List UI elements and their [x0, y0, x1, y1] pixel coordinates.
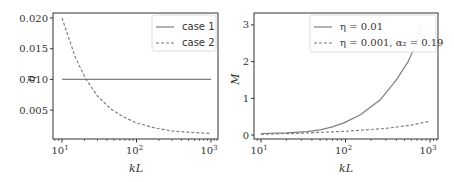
right-legend-eta-0001: η = 0.001, α₂ = 0.19 — [340, 37, 443, 48]
y-tick-label: 1 — [243, 93, 249, 104]
right-plot: 0123 101102103 M kL η = 0.01 η = 0.001, … — [229, 13, 443, 175]
x-tick-label: 103 — [200, 144, 217, 156]
right-y-label: M — [229, 73, 242, 86]
x-tick-label: 101 — [250, 144, 267, 156]
left-x-ticks: 101102103 — [51, 139, 217, 156]
figure: 0.0050.0100.0150.020 101102103 η kL case… — [0, 0, 454, 182]
x-tick-label: 103 — [419, 144, 436, 156]
y-tick-label: 0.015 — [19, 43, 48, 54]
left-y-ticks: 0.0050.0100.0150.020 — [19, 13, 53, 116]
right-legend-eta-001: η = 0.01 — [340, 21, 383, 32]
left-legend-case1: case 1 — [182, 21, 215, 32]
y-tick-label: 0.005 — [19, 105, 48, 116]
right-x-label: kL — [339, 162, 353, 175]
y-tick-label: 0 — [243, 130, 249, 141]
left-legend-case2: case 2 — [182, 37, 215, 48]
y-tick-label: 0.020 — [19, 13, 48, 24]
y-tick-label: 2 — [243, 56, 249, 67]
right-x-ticks: 101102103 — [250, 139, 436, 156]
x-tick-label: 102 — [335, 144, 352, 156]
x-tick-label: 102 — [126, 144, 143, 156]
x-tick-label: 101 — [51, 144, 68, 156]
left-plot: 0.0050.0100.0150.020 101102103 η kL case… — [19, 13, 218, 176]
y-tick-label: 3 — [243, 19, 249, 30]
left-y-label: η — [24, 75, 37, 82]
left-x-label: kL — [129, 162, 143, 175]
left-legend: case 1 case 2 — [152, 15, 216, 51]
right-legend: η = 0.01 η = 0.001, α₂ = 0.19 — [310, 15, 443, 52]
right-y-ticks: 0123 — [243, 19, 254, 140]
